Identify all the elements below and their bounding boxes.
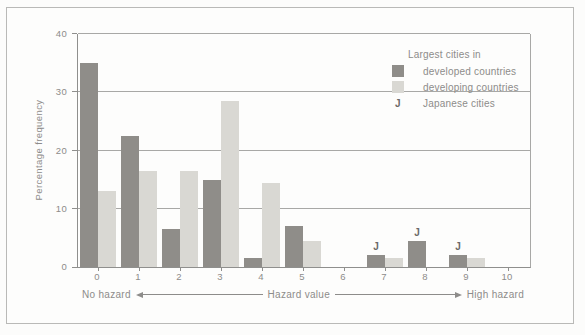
developing-bar	[262, 183, 280, 267]
x-axis-annotation: No hazard Hazard value High hazard	[77, 289, 529, 300]
gridline	[78, 33, 530, 34]
developed-bar	[162, 229, 180, 267]
x-tick-label: 4	[251, 272, 271, 282]
japanese-city-marker: J	[367, 242, 385, 252]
legend-item-developed: developed countries	[392, 65, 519, 77]
developing-bar	[180, 171, 198, 267]
x-tick-label: 1	[128, 272, 148, 282]
high-hazard-label: High hazard	[462, 289, 529, 300]
legend-item-developing: developing countries	[392, 81, 519, 93]
developing-bar	[467, 258, 485, 267]
developing-bar	[98, 191, 116, 267]
legend-item-label: Japanese cities	[423, 98, 495, 109]
developed-bar	[367, 255, 385, 267]
developed-bar	[80, 63, 98, 267]
right-arrow-icon	[335, 292, 462, 298]
y-axis-tick	[72, 267, 77, 268]
x-tick-label: 6	[333, 272, 353, 282]
developed-bar	[244, 258, 262, 267]
y-axis-tick	[72, 208, 77, 209]
japanese-city-marker: J	[449, 242, 467, 252]
no-hazard-label: No hazard	[77, 289, 136, 300]
legend: Largest cities in developed countries de…	[392, 49, 519, 113]
japanese-j-marker-icon: J	[392, 98, 404, 109]
x-tick-label: 2	[169, 272, 189, 282]
y-tick-label: 10	[45, 204, 67, 214]
developing-bar	[221, 101, 239, 267]
x-tick-label: 3	[210, 272, 230, 282]
developed-bar	[408, 241, 426, 267]
developing-bar	[139, 171, 157, 267]
developed-swatch-icon	[392, 65, 404, 77]
legend-item-label: developing countries	[423, 82, 519, 93]
x-tick-label: 9	[456, 272, 476, 282]
x-tick-label: 7	[374, 272, 394, 282]
y-tick-label: 30	[45, 87, 67, 97]
legend-item-label: developed countries	[423, 66, 516, 77]
x-tick-label: 5	[292, 272, 312, 282]
y-axis-tick	[72, 91, 77, 92]
japanese-city-marker: J	[408, 228, 426, 238]
x-tick-label: 0	[87, 272, 107, 282]
developed-bar	[203, 180, 221, 267]
developing-bar	[303, 241, 321, 267]
developing-bar	[385, 258, 403, 267]
figure-page: Percentage frequency JJJ 010203040012345…	[0, 0, 585, 335]
y-tick-label: 20	[45, 146, 67, 156]
x-tick-label: 10	[497, 272, 517, 282]
legend-item-japanese: J Japanese cities	[392, 97, 519, 109]
x-tick-label: 8	[415, 272, 435, 282]
y-tick-label: 40	[45, 29, 67, 39]
y-axis-title: Percentage frequency	[33, 100, 44, 201]
y-axis-tick	[72, 150, 77, 151]
hazard-value-label: Hazard value	[263, 289, 336, 300]
left-arrow-icon	[136, 292, 263, 298]
developed-bar	[285, 226, 303, 267]
developed-bar	[121, 136, 139, 267]
legend-title: Largest cities in	[408, 49, 519, 61]
y-axis-tick	[72, 33, 77, 34]
gridline	[78, 150, 530, 151]
developing-swatch-icon	[392, 81, 404, 93]
developed-bar	[449, 255, 467, 267]
y-tick-label: 0	[45, 262, 67, 272]
